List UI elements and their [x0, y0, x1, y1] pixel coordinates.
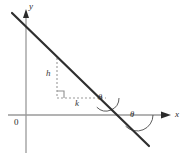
- slanted-line: [12, 13, 149, 146]
- angle-label-theta-2: θ: [130, 110, 134, 119]
- x-axis-arrowhead: [161, 112, 171, 119]
- origin-label: 0: [14, 118, 19, 127]
- vertical-leg-label-h: h: [46, 69, 51, 78]
- geometry-canvas: [0, 0, 188, 153]
- geometry-figure: y x 0 h k θ θ: [0, 0, 188, 153]
- angle-label-theta-1: θ: [98, 93, 102, 102]
- horizontal-leg-label-k: k: [75, 99, 79, 108]
- y-axis-label: y: [29, 2, 33, 11]
- right-angle-marker: [57, 91, 64, 98]
- x-axis-label: x: [175, 110, 179, 119]
